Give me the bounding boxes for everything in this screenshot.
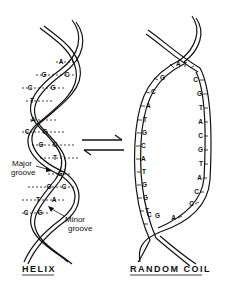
coil-base: T (199, 160, 203, 167)
coil-base: T (142, 168, 146, 175)
coil-base: A (171, 214, 176, 221)
coil-base: A (198, 118, 203, 125)
helix-base: A (59, 58, 64, 65)
coil-base: C (193, 76, 198, 83)
helix-base: G (38, 141, 43, 148)
major-groove-label: groove (11, 168, 36, 177)
coil-base: C (194, 188, 199, 195)
helix-base: G (41, 71, 46, 78)
coil-base: T (199, 104, 203, 111)
coil-base: G (160, 74, 165, 81)
coil-base: G (142, 129, 147, 136)
helix-base: G (46, 183, 51, 190)
helix-base: C (28, 84, 33, 91)
random-coil-diagram (135, 16, 211, 266)
helix-base: G (50, 84, 55, 91)
coil-base: T (143, 116, 147, 123)
coil-base: C (147, 211, 152, 218)
coil-base: C (198, 132, 203, 139)
helix-base: G (37, 209, 42, 216)
coil-base: C (151, 88, 156, 95)
coil-base: A (141, 155, 146, 162)
coil-base: G (143, 194, 148, 201)
coil-base: T (183, 61, 187, 68)
helix-base: A (52, 196, 57, 203)
helix-base: C (65, 71, 70, 78)
random-coil-left-strand: A G C A T G C A T G G T C G (141, 60, 181, 219)
helix-base: G (57, 170, 62, 177)
coil-base: A (146, 102, 151, 109)
dna-diagram: A G C C G T A C G G C T G G C T A C G Ma… (0, 0, 225, 287)
random-coil-title: RANDOM COIL (130, 264, 211, 274)
coil-base: G (142, 181, 147, 188)
coil-base: A (176, 60, 181, 67)
coil-base: G (155, 212, 160, 219)
equilibrium-arrows (82, 135, 124, 155)
coil-base: G (198, 146, 203, 153)
helix-title: HELIX (22, 264, 56, 274)
helix-base: C (62, 183, 67, 190)
helix-base: G (42, 128, 47, 135)
helix-base: C (53, 141, 58, 148)
helix-base: C (25, 128, 30, 135)
helix-base: A (31, 116, 36, 123)
helix-base: C (24, 209, 29, 216)
helix-base: T (53, 154, 57, 161)
coil-base: C (141, 142, 146, 149)
coil-base: C (189, 200, 194, 207)
minor-groove-label: Minor (65, 215, 85, 224)
major-groove-label: Major (12, 159, 32, 168)
helix-base: T (36, 196, 40, 203)
coil-base: A (197, 174, 202, 181)
helix-base: T (30, 97, 34, 104)
coil-base: G (197, 90, 202, 97)
minor-groove-label: groove (68, 224, 93, 233)
